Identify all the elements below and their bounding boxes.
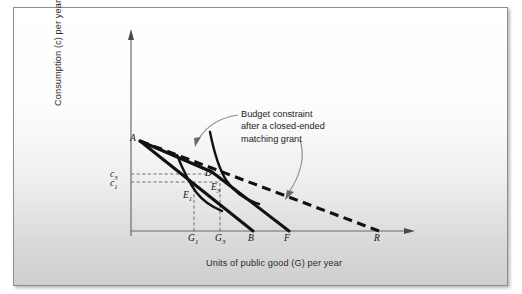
point-label-e3: E3 [211,182,220,194]
x-tick-label-r: R [374,233,380,243]
figure-container: Consumption (c) per year Units of public… [0,0,522,294]
chart-plot-area [0,0,522,294]
x-axis-title: Units of public good (G) per year [206,258,342,268]
annotation-leader-upper [194,115,238,147]
x-tick-label-g3: G3 [215,233,225,245]
series-original-constraint-AB [140,141,253,231]
x-tick-label-g3-sub: 3 [222,238,225,245]
budget-constraint-annotation: Budget constraint after a closed-ended m… [241,108,381,145]
point-label-d: D [205,168,212,178]
x-tick-label-g1: G1 [188,233,198,245]
series-open-ended-constraint-AR [140,141,379,231]
point-label-a: A [130,133,136,143]
x-tick-label-g3-base: G [215,233,222,243]
y-tick-label-c1: c1 [110,178,118,190]
x-tick-label-g1-sub: 1 [195,238,198,245]
annotation-leader-lower [285,140,302,200]
x-tick-label-b: B [248,233,254,243]
x-tick-label-f: F [284,233,290,243]
point-label-e1: E1 [183,190,192,202]
point-label-e3-sub: 3 [217,187,220,194]
x-tick-label-g1-base: G [188,233,195,243]
y-tick-label-c1-sub: 1 [114,183,117,190]
y-axis-title: Consumption (c) per year [53,0,63,106]
point-label-e1-sub: 1 [189,195,192,202]
